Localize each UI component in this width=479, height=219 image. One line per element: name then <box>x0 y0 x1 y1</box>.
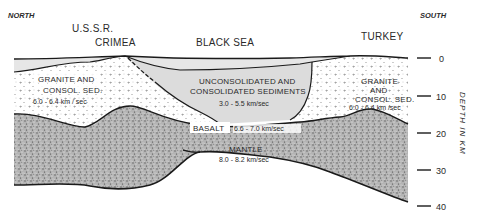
crimea-label: CRIMEA <box>95 37 136 48</box>
tick-label-10: 10 <box>436 92 446 102</box>
mantle-speed: 8.0 - 8.2 km/sec <box>219 156 269 163</box>
sediment-speed: 3.0 - 5.5 km/sec <box>219 100 269 107</box>
tick-label-30: 30 <box>436 166 446 176</box>
depth-axis <box>417 58 431 206</box>
granite-right-line2: AND <box>370 86 388 95</box>
granite-left-line1: GRANITE AND <box>38 75 94 84</box>
north-label: NORTH <box>8 11 35 20</box>
ussr-label: U.S.S.R. <box>72 23 113 34</box>
depth-axis-title: DEPTH IN KM <box>458 92 467 155</box>
basalt-label: BASALT <box>193 124 224 133</box>
sediment-line2: CONSOLIDATED SEDIMENTS <box>190 87 306 96</box>
south-label: SOUTH <box>420 11 447 20</box>
tick-label-20: 20 <box>436 129 446 139</box>
granite-right-line1: GRANITE <box>361 77 398 86</box>
granite-right-speed: 6.0 - 6.4 km /sec <box>349 104 401 111</box>
granite-right-line3: CONSOL. SED. <box>355 95 414 104</box>
granite-left-speed: 6.0 - 6.4 km / sec <box>33 98 87 105</box>
granite-left-line2: CONSOL. SED. <box>43 86 102 95</box>
cross-section-diagram: + NORTH SOUTH <box>0 0 479 219</box>
tick-label-40: 40 <box>436 202 446 212</box>
basalt-speed: 6.6 - 7.0 km/sec <box>234 125 284 132</box>
turkey-label: TURKEY <box>361 31 403 42</box>
sediment-line1: UNCONSOLIDATED AND <box>199 77 295 86</box>
tick-label-0: 0 <box>439 54 444 64</box>
mantle-label: MANTLE <box>229 145 263 154</box>
black-sea-label: BLACK SEA <box>196 37 254 48</box>
